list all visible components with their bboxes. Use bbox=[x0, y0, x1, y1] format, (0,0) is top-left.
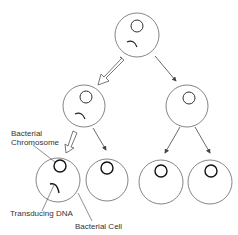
cell-parent bbox=[115, 13, 159, 57]
bacterial-chromosome bbox=[80, 91, 92, 103]
arrow-icon bbox=[155, 56, 176, 81]
leader-line-chromosome bbox=[33, 145, 55, 162]
cell-gen1-right bbox=[166, 85, 208, 127]
leader-line-transducing-dna bbox=[42, 185, 54, 211]
bacterial-chromosome bbox=[155, 165, 167, 177]
hollow-arrow-icon bbox=[65, 131, 77, 153]
bacterial-chromosome bbox=[54, 160, 66, 172]
bacterial-chromosome bbox=[205, 165, 217, 177]
label-bacterial: Bacterial bbox=[11, 129, 42, 138]
cell-gen2-d bbox=[188, 160, 232, 204]
transducing-dna bbox=[75, 113, 85, 119]
leader-line-bacterial-cell bbox=[78, 193, 92, 221]
transducing-dna bbox=[50, 184, 59, 193]
bacterial-chromosome bbox=[101, 162, 113, 174]
transducing-dna bbox=[127, 41, 137, 47]
label-transducing-dna: Transducing DNA bbox=[10, 209, 73, 218]
hollow-arrow-icon bbox=[98, 57, 124, 85]
cell-gen1-left bbox=[63, 85, 105, 127]
label-chromosome: Chromosome bbox=[11, 138, 59, 147]
arrow-icon bbox=[93, 128, 106, 150]
label-bacterial-cell: Bacterial Cell bbox=[75, 222, 122, 231]
cell-gen2-c bbox=[139, 160, 183, 204]
cell-gen2-a bbox=[36, 158, 80, 202]
cell-gen2-b bbox=[86, 159, 128, 201]
bacterial-chromosome bbox=[183, 92, 195, 104]
bacterial-chromosome bbox=[131, 20, 143, 32]
arrow-icon bbox=[165, 127, 180, 153]
arrow-icon bbox=[195, 127, 210, 153]
transduction-diagram bbox=[0, 0, 238, 235]
